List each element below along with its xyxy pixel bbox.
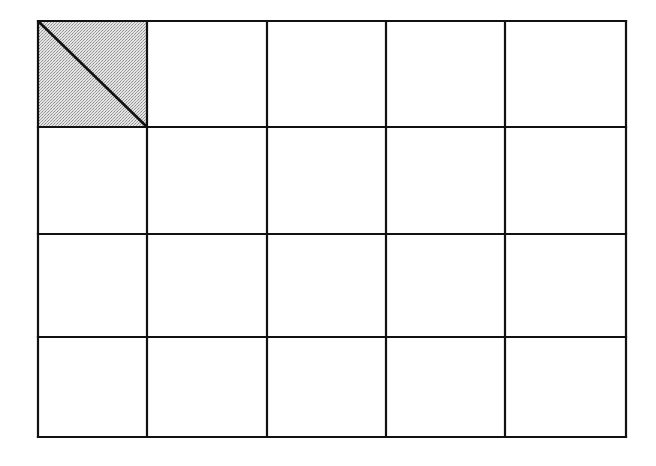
grid-diagram	[0, 0, 656, 466]
